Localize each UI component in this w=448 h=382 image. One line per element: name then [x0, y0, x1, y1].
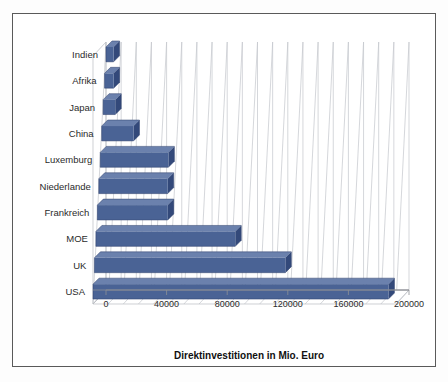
category-label: Niederlande — [40, 181, 91, 192]
bar-front-face — [94, 258, 285, 273]
category-label: Luxemburg — [45, 154, 93, 165]
gridline-vertical — [290, 42, 303, 304]
x-axis-title: Direktinvestitionen in Mio. Euro — [174, 350, 324, 361]
bar-front-face — [105, 73, 114, 88]
category-label: Afrika — [72, 75, 97, 86]
bar-front-face — [106, 47, 114, 62]
bar-front-face — [97, 205, 167, 220]
bar-front-face — [96, 231, 235, 246]
bar-top-face — [100, 146, 174, 152]
x-tick-label: 120000 — [273, 299, 303, 309]
gridline-vertical — [320, 42, 333, 304]
bar-japan — [103, 94, 121, 115]
category-label: MOE — [66, 233, 88, 244]
x-tick-label: 40000 — [154, 299, 179, 309]
category-label: Indien — [72, 49, 98, 60]
bar-luxemburg — [100, 146, 174, 167]
category-label: China — [69, 128, 95, 139]
bar-china — [102, 120, 140, 141]
bar-usa — [93, 278, 394, 299]
x-tick-label: 0 — [103, 299, 108, 309]
x-tick-label: 160000 — [333, 299, 363, 309]
bar-front-face — [99, 179, 168, 194]
category-label: UK — [73, 260, 87, 271]
category-label: USA — [65, 286, 85, 297]
bar-front-face — [103, 100, 115, 115]
chart-svg: IndienAfrikaJapanChinaLuxemburgNiederlan… — [13, 14, 437, 368]
bar-niederlande — [99, 173, 174, 194]
page-background: IndienAfrikaJapanChinaLuxemburgNiederlan… — [0, 0, 448, 382]
chart-frame: IndienAfrikaJapanChinaLuxemburgNiederlan… — [12, 13, 436, 367]
bar-uk — [94, 252, 291, 273]
gridline-vertical — [351, 42, 364, 304]
bars — [93, 41, 394, 299]
bar-top-face — [102, 120, 140, 126]
category-label: Japan — [69, 102, 95, 113]
bar-top-face — [93, 278, 394, 284]
bar-top-face — [97, 199, 173, 205]
x-tick-label: 200000 — [394, 299, 424, 309]
bar-indien — [106, 41, 120, 62]
bar-front-face — [93, 284, 388, 299]
gridline-vertical — [335, 42, 348, 304]
bar-afrika — [105, 67, 120, 88]
gridline-vertical — [366, 42, 379, 304]
x-tick-label: 80000 — [215, 299, 240, 309]
gridline-vertical — [305, 42, 318, 304]
bar-moe — [96, 225, 241, 246]
bar-top-face — [94, 252, 291, 258]
category-label: Frankreich — [44, 207, 89, 218]
gridline-vertical — [381, 42, 394, 304]
bar-frankreich — [97, 199, 173, 220]
bar-front-face — [102, 126, 134, 141]
bar-top-face — [96, 225, 241, 231]
bar-chart: IndienAfrikaJapanChinaLuxemburgNiederlan… — [13, 14, 437, 368]
bar-top-face — [99, 173, 174, 179]
gridline-vertical — [396, 42, 409, 304]
bar-front-face — [100, 152, 168, 167]
category-labels: IndienAfrikaJapanChinaLuxemburgNiederlan… — [40, 49, 98, 297]
